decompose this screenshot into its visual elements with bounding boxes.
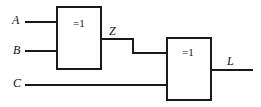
output-label-l: L [227, 55, 234, 67]
wire-net-z [100, 39, 168, 53]
logic-circuit-diagram: A B C Z L =1 =1 [0, 0, 261, 107]
circuit-wiring-svg [0, 0, 261, 107]
input-label-b: B [13, 44, 20, 56]
input-label-c: C [13, 77, 21, 89]
gate-2-label: =1 [182, 47, 194, 58]
net-label-z: Z [109, 25, 116, 37]
input-label-a: A [12, 14, 19, 26]
gate-1-label: =1 [73, 18, 85, 29]
